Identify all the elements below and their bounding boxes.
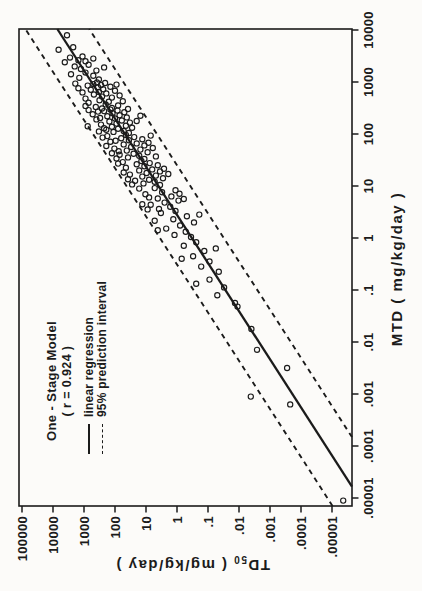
data-point: [148, 133, 153, 138]
data-point: [150, 167, 155, 172]
data-point: [91, 56, 96, 61]
data-point: [68, 72, 73, 77]
dashed-line-sample: [102, 424, 103, 454]
data-point: [169, 194, 174, 199]
data-point: [125, 177, 130, 182]
legend-entry-label: linear regression: [82, 317, 96, 417]
data-point: [152, 218, 157, 223]
data-point: [124, 115, 129, 120]
data-point: [100, 135, 105, 140]
data-point: [62, 60, 67, 65]
data-point: [155, 163, 160, 168]
data-point: [131, 151, 136, 156]
y-tick-label: .1: [201, 516, 216, 527]
legend-entry-prediction-interval: 95% prediction interval: [95, 281, 109, 454]
data-point: [107, 119, 112, 124]
data-point: [132, 135, 137, 140]
data-point: [145, 150, 150, 155]
data-point: [155, 196, 160, 201]
data-point: [125, 106, 130, 111]
data-point: [191, 220, 196, 225]
data-point: [153, 154, 158, 159]
y-tick-label: .00001: [325, 516, 340, 558]
data-point: [162, 200, 167, 205]
y-tick-label: .0001: [294, 516, 309, 550]
data-point: [85, 124, 90, 129]
data-point: [207, 277, 212, 282]
data-point: [104, 143, 109, 148]
data-point: [86, 108, 91, 113]
data-point: [108, 84, 113, 89]
x-tick-label: .01: [361, 333, 376, 352]
data-point: [216, 269, 221, 274]
data-point: [166, 171, 171, 176]
prediction-interval-lower: [89, 29, 352, 437]
data-point: [213, 246, 218, 251]
data-point: [176, 198, 181, 203]
data-point: [248, 394, 253, 399]
y-tick-label: 1000: [77, 516, 92, 546]
data-point: [119, 136, 124, 141]
data-point: [164, 226, 169, 231]
data-point: [67, 55, 72, 60]
data-point: [114, 156, 119, 161]
data-point: [105, 114, 110, 119]
data-point: [85, 83, 90, 88]
data-point: [145, 207, 150, 212]
data-point: [181, 243, 186, 248]
y-tick-label: 100: [108, 516, 123, 539]
x-tick-label: 1000: [361, 67, 376, 97]
data-point: [113, 138, 118, 143]
data-point: [80, 90, 85, 95]
data-point: [116, 103, 121, 108]
data-point: [127, 120, 132, 125]
data-point: [116, 161, 121, 166]
data-point: [115, 108, 120, 113]
data-point: [134, 118, 139, 123]
data-point: [144, 170, 149, 175]
data-point: [181, 196, 186, 201]
scanned-figure-page: .00001.0001.001.01.111010010001000010000…: [0, 0, 422, 591]
data-point: [184, 214, 189, 219]
data-point: [109, 151, 114, 156]
data-point: [134, 141, 139, 146]
y-axis-title-subscript: 50: [233, 554, 247, 565]
y-axis-title-main: TD: [247, 557, 270, 574]
data-point: [138, 147, 143, 152]
data-point: [147, 195, 152, 200]
data-point: [171, 217, 176, 222]
legend-entry-linear-regression: linear regression: [82, 317, 96, 454]
data-point: [73, 81, 78, 86]
data-point: [116, 149, 121, 154]
y-axis-title: TD50 ( mg/kg/day ): [0, 557, 404, 574]
data-point: [288, 402, 293, 407]
data-point: [121, 142, 126, 147]
data-point: [172, 232, 177, 237]
y-tick-label: 1: [170, 516, 185, 524]
data-point: [71, 45, 76, 50]
x-tick-label: 1: [361, 234, 376, 242]
data-point: [77, 75, 82, 80]
data-point: [194, 281, 199, 286]
y-tick-label: .01: [232, 516, 247, 535]
data-point: [95, 109, 100, 114]
data-point: [96, 129, 101, 134]
legend-title: One - Stage Model: [44, 301, 59, 461]
x-tick-label: .0001: [361, 429, 376, 463]
data-point: [112, 88, 117, 93]
data-point: [160, 176, 165, 181]
x-tick-label: 10000: [361, 11, 376, 49]
data-point: [109, 95, 114, 100]
data-point: [121, 170, 126, 175]
data-point: [108, 139, 113, 144]
data-point: [161, 166, 166, 171]
y-tick-label: .001: [263, 516, 278, 543]
data-point: [153, 173, 158, 178]
data-point: [72, 64, 77, 69]
rotated-chart-canvas: .00001.0001.001.01.111010010001000010000…: [0, 0, 422, 591]
data-point: [140, 137, 145, 142]
data-point: [130, 125, 135, 130]
data-point: [83, 96, 88, 101]
data-point: [137, 168, 142, 173]
data-point: [199, 264, 204, 269]
